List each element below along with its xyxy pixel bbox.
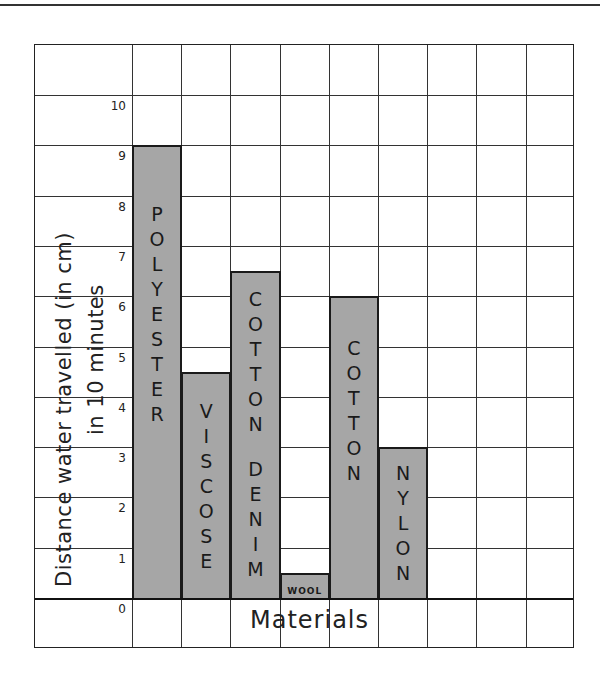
y-tick-label: 8 — [106, 200, 126, 214]
bar-label-letter: I — [232, 532, 278, 557]
bar-label-letter: O — [134, 227, 180, 252]
y-tick-label: 10 — [106, 99, 126, 113]
bar-label-letter: S — [183, 524, 229, 549]
bar-label: WOOL — [282, 585, 328, 597]
bar-label: POLYESTER — [134, 202, 180, 427]
y-tick-label: 5 — [106, 351, 126, 365]
y-tick-label: 7 — [106, 250, 126, 264]
bar-label-letter: R — [134, 402, 180, 427]
bar-viscose: VISCOSE — [181, 372, 231, 598]
bar-label-letter: N — [380, 561, 426, 586]
bar-label-letter: WOOL — [282, 585, 328, 597]
bar-label: COTTON — [331, 336, 377, 486]
bar-label: COTTONDENIM — [232, 287, 278, 582]
y-tick-label: 2 — [106, 501, 126, 515]
bar-label-letter: L — [380, 511, 426, 536]
grid-horizontal-line — [35, 497, 573, 498]
y-tick-label: 3 — [106, 451, 126, 465]
bar-label-letter: N — [232, 507, 278, 532]
grid-horizontal-line — [35, 196, 573, 197]
y-tick-label: 4 — [106, 401, 126, 415]
bar-label-letter: E — [232, 482, 278, 507]
grid-horizontal-line — [35, 447, 573, 448]
bar-label-letter: M — [232, 557, 278, 582]
bar-nylon: NYLON — [378, 447, 428, 598]
bar-label-letter: T — [331, 411, 377, 436]
bar-label-letter: O — [380, 536, 426, 561]
bar-label-letter: T — [134, 352, 180, 377]
grid-horizontal-line — [35, 246, 573, 247]
bar-label-letter: P — [134, 202, 180, 227]
bar-label-letter: O — [183, 499, 229, 524]
bar-label-letter: N — [331, 461, 377, 486]
grid-horizontal-line — [35, 397, 573, 398]
y-axis-label-line1: Distance water travelled (in cm) — [52, 232, 76, 587]
grid-horizontal-line — [35, 296, 573, 297]
bar-label-letter: O — [232, 312, 278, 337]
bar-label-letter: O — [331, 361, 377, 386]
bar-label-letter: O — [232, 387, 278, 412]
y-tick-label: 6 — [106, 300, 126, 314]
y-axis-label-line2: in 10 minutes — [84, 284, 108, 435]
grid-horizontal-line — [35, 95, 573, 96]
top-border-rule — [0, 4, 600, 6]
bar-label: NYLON — [380, 461, 426, 586]
chart-grid: 109876543210POLYESTERVISCOSECOTTONDENIMW… — [34, 44, 574, 648]
bar-label-letter: D — [232, 457, 278, 482]
bar-label-letter: S — [183, 449, 229, 474]
y-tick-label: 1 — [106, 552, 126, 566]
bar-label-letter: T — [232, 362, 278, 387]
grid-horizontal-line — [35, 347, 573, 348]
bar-label-letter: Y — [134, 277, 180, 302]
bar-label-letter: C — [331, 336, 377, 361]
bar-label-letter: C — [232, 287, 278, 312]
bar-label-letter: L — [134, 252, 180, 277]
grid-horizontal-line — [35, 548, 573, 549]
bar-label-letter: N — [232, 412, 278, 437]
bar-label-letter: T — [232, 337, 278, 362]
bar-polyester: POLYESTER — [132, 145, 182, 598]
x-axis-label: Materials — [250, 606, 369, 634]
y-tick-label: 9 — [106, 149, 126, 163]
bar-label-letter: E — [134, 377, 180, 402]
bar-label-letter: T — [331, 386, 377, 411]
bar-label-letter: E — [183, 549, 229, 574]
bar-label-letter: C — [183, 474, 229, 499]
grid-horizontal-line — [35, 145, 573, 146]
bar-label-letter: V — [183, 399, 229, 424]
y-tick-label: 0 — [106, 602, 126, 616]
bar-label: VISCOSE — [183, 399, 229, 574]
bar-label-letter: O — [331, 436, 377, 461]
x-axis-baseline — [35, 598, 573, 600]
bar-cotton-denim: COTTONDENIM — [230, 271, 280, 598]
bar-label-letter: Y — [380, 486, 426, 511]
bar-wool: WOOL — [280, 573, 330, 598]
bar-cotton: COTTON — [329, 296, 379, 598]
bar-label-letter: N — [380, 461, 426, 486]
bar-label-letter — [232, 437, 278, 457]
bar-label-letter: I — [183, 424, 229, 449]
bar-label-letter: E — [134, 302, 180, 327]
bar-label-letter: S — [134, 327, 180, 352]
